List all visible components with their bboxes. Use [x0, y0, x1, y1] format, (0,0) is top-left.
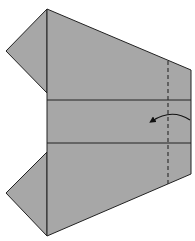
origami-diagram: Origami fold step	[0, 0, 195, 241]
bottom-flap	[6, 152, 47, 236]
paper-body	[47, 9, 191, 236]
top-flap	[6, 9, 47, 93]
